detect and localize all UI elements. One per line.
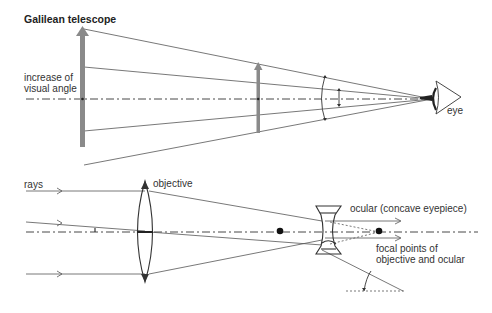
visual-angle-label-line1: increase of bbox=[24, 72, 73, 83]
focal-points-label-line1: focal points of bbox=[376, 243, 438, 254]
objective-label: objective bbox=[153, 178, 192, 189]
rays-label: rays bbox=[24, 179, 43, 190]
focal-point-ocular bbox=[376, 228, 383, 235]
large-object-arrow bbox=[76, 26, 89, 147]
ocular-lens bbox=[316, 206, 341, 254]
top-diagram bbox=[26, 29, 432, 165]
galilean-telescope-diagram bbox=[0, 0, 492, 313]
large-angle-arc bbox=[322, 76, 326, 120]
focal-points-label-line2: objective and ocular bbox=[376, 254, 465, 265]
ocular-label: ocular (concave eyepiece) bbox=[350, 203, 467, 214]
diagram-title: Galilean telescope bbox=[24, 14, 116, 25]
small-object-arrow bbox=[254, 62, 263, 133]
eye-label: eye bbox=[447, 105, 463, 116]
focal-point-objective bbox=[277, 228, 284, 235]
objective-lens bbox=[137, 181, 153, 282]
visual-angle-label-line2: visual angle bbox=[24, 83, 77, 94]
